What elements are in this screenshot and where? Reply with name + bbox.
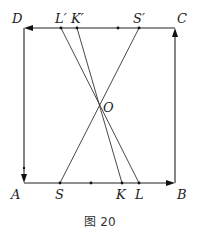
dot-mid-da (23, 167, 25, 169)
dot-kprime (76, 27, 79, 30)
dot-sprime (138, 27, 141, 30)
dot-k (121, 182, 124, 185)
dot-lprime (60, 27, 63, 30)
figure-caption: 图 20 (84, 215, 115, 229)
point-dots (23, 27, 141, 185)
label-a: A (10, 187, 20, 202)
label-o: O (103, 100, 114, 115)
label-lprime: L′ (54, 11, 67, 26)
label-b: B (176, 187, 187, 202)
arrow-right-icon (166, 180, 175, 186)
arrow-down-icon (21, 174, 27, 183)
dot-l (138, 182, 141, 185)
label-l: L (134, 187, 144, 202)
crossing-segments (60, 28, 139, 183)
label-d: D (11, 11, 23, 26)
dot-mid-ab (90, 182, 93, 185)
arrow-left-icon (24, 25, 33, 31)
label-c: C (177, 11, 187, 26)
label-kprime: K′ (70, 11, 84, 26)
label-sprime: S′ (133, 11, 145, 26)
dot-s (59, 182, 62, 185)
label-s: S (55, 187, 64, 202)
dot-mid-cd (117, 27, 120, 30)
arrow-up-icon (172, 28, 178, 37)
label-k: K (115, 187, 127, 202)
geometry-diagram: D L′ K′ S′ C O A S K L B 图 20 (0, 0, 201, 245)
